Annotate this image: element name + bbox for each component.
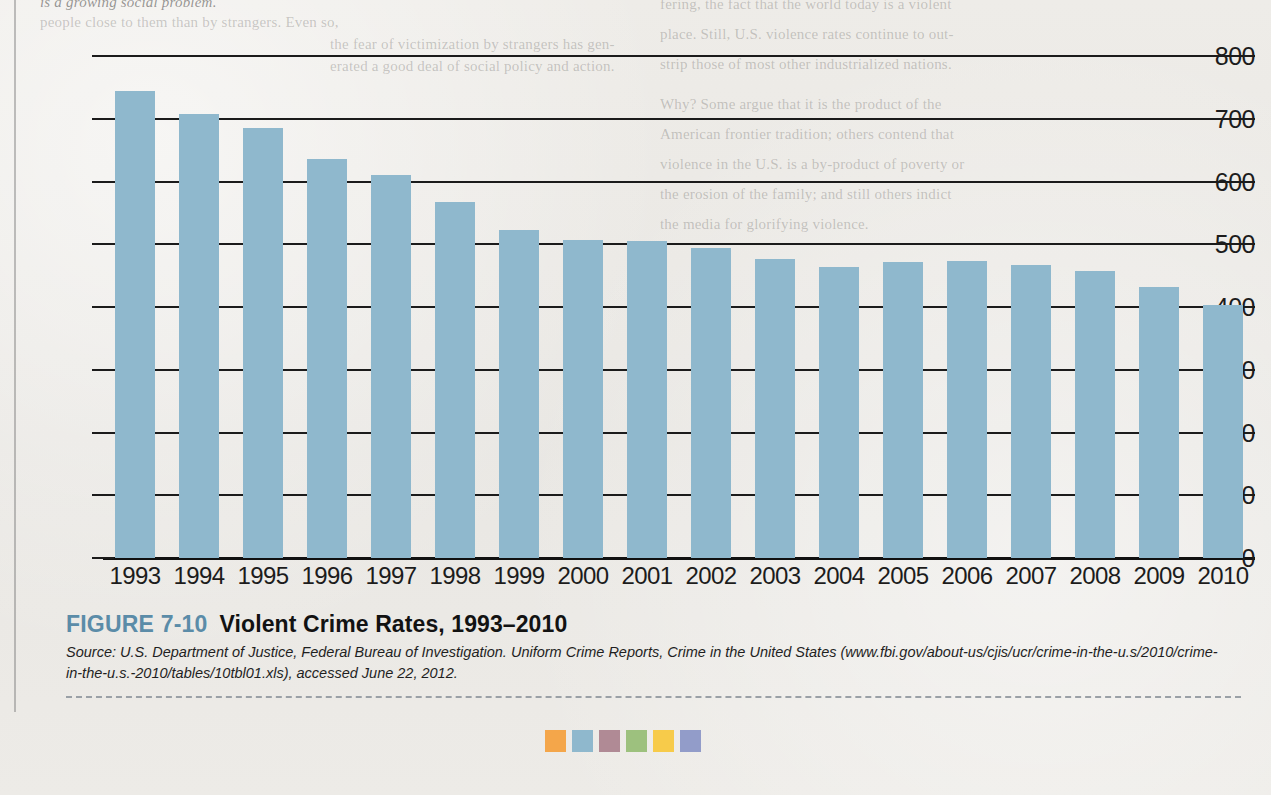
figure-title: Violent Crime Rates, 1993–2010 bbox=[220, 611, 568, 637]
page-left-rule bbox=[14, 0, 16, 712]
color-swatch-3 bbox=[599, 730, 620, 752]
figure-panel: 0100200300400500600700800 19931994199519… bbox=[20, 6, 1255, 706]
bar-2005 bbox=[883, 262, 923, 558]
bar-2007 bbox=[1011, 265, 1051, 558]
chart-plot-area: 0100200300400500600700800 bbox=[20, 6, 1255, 606]
source-prefix: Source: bbox=[66, 644, 116, 660]
x-tick-label-2003: 2003 bbox=[743, 562, 807, 590]
color-swatch-1 bbox=[545, 730, 566, 752]
x-tick-label-1998: 1998 bbox=[423, 562, 487, 590]
bar-1993 bbox=[115, 91, 155, 558]
bars-group bbox=[103, 6, 1255, 606]
caption-divider bbox=[66, 696, 1241, 698]
x-tick-label-2010: 2010 bbox=[1191, 562, 1255, 590]
bar-1997 bbox=[371, 175, 411, 558]
bar-2008 bbox=[1075, 271, 1115, 558]
x-tick-label-1995: 1995 bbox=[231, 562, 295, 590]
bar-1996 bbox=[307, 159, 347, 558]
x-tick-label-1997: 1997 bbox=[359, 562, 423, 590]
bar-1998 bbox=[435, 202, 475, 558]
x-tick-label-2008: 2008 bbox=[1063, 562, 1127, 590]
x-axis-tick-group: 1993199419951996199719981999200020012002… bbox=[103, 562, 1255, 602]
x-tick-label-2000: 2000 bbox=[551, 562, 615, 590]
bar-2004 bbox=[819, 267, 859, 558]
x-tick-label-2009: 2009 bbox=[1127, 562, 1191, 590]
figure-number: FIGURE 7-10 bbox=[66, 611, 208, 637]
color-swatch-strip bbox=[545, 730, 701, 752]
x-tick-label-2007: 2007 bbox=[999, 562, 1063, 590]
color-swatch-5 bbox=[653, 730, 674, 752]
bar-2000 bbox=[563, 240, 603, 558]
x-tick-label-2001: 2001 bbox=[615, 562, 679, 590]
x-tick-label-1993: 1993 bbox=[103, 562, 167, 590]
x-tick-label-2005: 2005 bbox=[871, 562, 935, 590]
x-tick-label-1996: 1996 bbox=[295, 562, 359, 590]
bar-1999 bbox=[499, 230, 539, 558]
x-tick-label-1999: 1999 bbox=[487, 562, 551, 590]
x-tick-label-2002: 2002 bbox=[679, 562, 743, 590]
bar-2003 bbox=[755, 259, 795, 558]
x-tick-label-2004: 2004 bbox=[807, 562, 871, 590]
bar-2009 bbox=[1139, 287, 1179, 558]
bar-2001 bbox=[627, 241, 667, 558]
source-text-1: U.S. Department of Justice, Federal Bure… bbox=[120, 644, 663, 660]
x-tick-label-1994: 1994 bbox=[167, 562, 231, 590]
color-swatch-4 bbox=[626, 730, 647, 752]
bar-2006 bbox=[947, 261, 987, 558]
figure-heading: FIGURE 7-10Violent Crime Rates, 1993–201… bbox=[66, 610, 1246, 639]
source-accessed: accessed June 22, 2012. bbox=[297, 665, 458, 681]
figure-source: Source: U.S. Department of Justice, Fede… bbox=[66, 642, 1231, 684]
bar-1994 bbox=[179, 114, 219, 558]
figure-caption: FIGURE 7-10Violent Crime Rates, 1993–201… bbox=[66, 610, 1246, 684]
source-text-2: Crime in the United States bbox=[667, 644, 836, 660]
x-tick-label-2006: 2006 bbox=[935, 562, 999, 590]
bar-2002 bbox=[691, 248, 731, 558]
color-swatch-6 bbox=[680, 730, 701, 752]
bar-2010 bbox=[1203, 305, 1243, 559]
bar-1995 bbox=[243, 128, 283, 558]
color-swatch-2 bbox=[572, 730, 593, 752]
